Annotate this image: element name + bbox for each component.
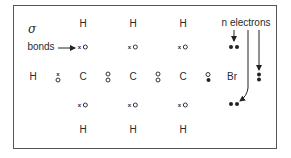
arrows-layer — [0, 0, 291, 158]
arrow-to-bottom-pair-icon — [240, 30, 248, 101]
